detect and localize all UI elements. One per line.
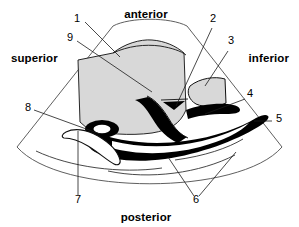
number-label-8: 8 bbox=[25, 101, 31, 113]
number-label-1: 1 bbox=[74, 12, 80, 24]
number-label-6: 6 bbox=[193, 193, 199, 205]
number-label-3: 3 bbox=[228, 34, 234, 46]
number-label-5: 5 bbox=[276, 112, 282, 124]
number-label-2: 2 bbox=[210, 12, 216, 24]
lobe-outline bbox=[188, 78, 226, 107]
orientation-label-anterior: anterior bbox=[124, 8, 168, 20]
number-label-7: 7 bbox=[75, 193, 81, 205]
scan-diagram-svg: anterior superior inferior posterior 1 2… bbox=[0, 0, 299, 227]
number-label-9: 9 bbox=[67, 31, 73, 43]
orientation-label-posterior: posterior bbox=[121, 211, 172, 223]
ultrasound-figure: anterior superior inferior posterior 1 2… bbox=[0, 0, 299, 227]
orientation-label-inferior: inferior bbox=[249, 52, 290, 64]
sector-near-arc bbox=[113, 19, 187, 26]
number-label-4: 4 bbox=[247, 87, 253, 99]
orientation-label-superior: superior bbox=[11, 52, 58, 64]
soft-tissue-lobe bbox=[188, 78, 226, 107]
leader-line-6a bbox=[168, 157, 194, 196]
leader-line-1 bbox=[85, 22, 120, 57]
duct-ring-lumen bbox=[94, 125, 111, 133]
